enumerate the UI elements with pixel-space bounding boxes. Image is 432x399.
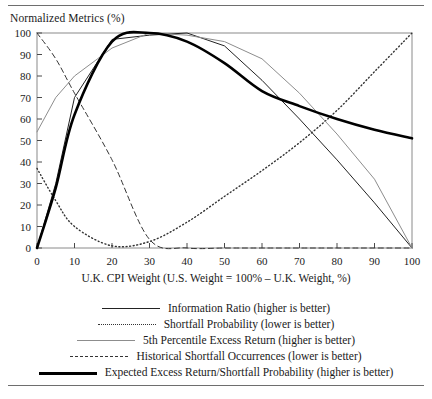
legend-label: Expected Excess Return/Shortfall Probabi…: [105, 366, 394, 378]
y-tick-label: 40: [5, 157, 31, 167]
x-tick-label: 10: [60, 256, 90, 266]
plot-area: 0102030405060708090100 01020304050607080…: [0, 0, 432, 300]
series-line: [37, 32, 412, 248]
series-line: [37, 33, 412, 248]
legend-line-swatch: [39, 366, 97, 378]
y-tick-label: 70: [5, 93, 31, 103]
x-tick-label: 20: [97, 256, 127, 266]
x-tick-label: 100: [397, 256, 427, 266]
x-tick-label: 40: [172, 256, 202, 266]
x-tick-label: 90: [360, 256, 390, 266]
y-tick-label: 60: [5, 114, 31, 124]
legend-label: Shortfall Probability (lower is better): [164, 318, 335, 330]
legend-label: 5th Percentile Excess Return (higher is …: [143, 334, 355, 346]
x-tick-label: 30: [135, 256, 165, 266]
legend-label: Information Ratio (higher is better): [168, 302, 330, 314]
legend-entry: Shortfall Probability (lower is better): [0, 316, 432, 332]
series-line: [37, 33, 412, 249]
y-tick-label: 10: [5, 222, 31, 232]
y-tick-label: 50: [5, 136, 31, 146]
legend-line-swatch: [77, 334, 135, 346]
chart-canvas: [0, 0, 432, 300]
legend-label: Historical Shortfall Occurrences (lower …: [136, 350, 361, 362]
plot-frame: [37, 33, 412, 248]
chart-legend: Information Ratio (higher is better)Shor…: [0, 300, 432, 382]
legend-entry: 5th Percentile Excess Return (higher is …: [0, 332, 432, 348]
x-tick-label: 80: [322, 256, 352, 266]
y-tick-label: 80: [5, 71, 31, 81]
figure: Normalized Metrics (%) 01020304050607080…: [0, 0, 432, 399]
y-tick-label: 20: [5, 200, 31, 210]
legend-entry: Expected Excess Return/Shortfall Probabi…: [0, 364, 432, 380]
x-axis-title: U.K. CPI Weight (U.S. Weight = 100% – U.…: [0, 272, 432, 284]
legend-line-swatch: [98, 318, 156, 330]
y-tick-label: 0: [5, 243, 31, 253]
legend-line-swatch: [102, 302, 160, 314]
bottom-rule: [8, 385, 424, 386]
series-line: [37, 33, 412, 248]
x-tick-label: 0: [22, 256, 52, 266]
x-tick-label: 50: [210, 256, 240, 266]
legend-entry: Information Ratio (higher is better): [0, 300, 432, 316]
legend-line-swatch: [70, 350, 128, 362]
x-tick-label: 60: [247, 256, 277, 266]
x-tick-label: 70: [285, 256, 315, 266]
legend-entry: Historical Shortfall Occurrences (lower …: [0, 348, 432, 364]
y-tick-label: 100: [5, 28, 31, 38]
y-tick-label: 30: [5, 179, 31, 189]
y-tick-label: 90: [5, 50, 31, 60]
series-line: [37, 33, 412, 247]
